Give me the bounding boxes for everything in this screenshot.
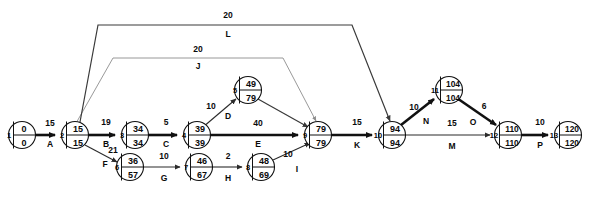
activity-G-duration: 10: [159, 151, 169, 161]
node-8-late-time: 69: [259, 170, 269, 180]
activity-A-duration: 15: [45, 118, 55, 128]
node-13-early-time: 120: [565, 124, 579, 134]
activity-F-name: F: [102, 159, 107, 169]
activity-H-duration: 2: [226, 151, 231, 161]
node-12-late-time: 110: [505, 138, 519, 148]
node-13[interactable]: 13 120 120: [550, 122, 582, 149]
edge-5-to-9[interactable]: [258, 99, 308, 127]
node-2-late-time: 15: [73, 138, 83, 148]
node-1-label: 1: [7, 131, 11, 140]
activity-I-duration: 10: [283, 149, 293, 159]
node-1-early-time: 0: [21, 124, 26, 134]
node-2[interactable]: 2 15 15: [60, 122, 89, 149]
activity-E-duration: 40: [253, 118, 263, 128]
node-5[interactable]: 5 49 79: [233, 77, 262, 104]
node-10-label: 10: [374, 131, 382, 140]
nodes-layer: 1 0 0 2 15 15 3 34 34: [7, 77, 582, 181]
activity-P-duration: 10: [535, 117, 545, 127]
node-6[interactable]: 6 36 57: [115, 154, 144, 181]
activity-P-name: P: [537, 140, 543, 150]
node-6-label: 6: [115, 163, 119, 172]
activity-J-duration: 20: [193, 44, 203, 54]
activity-G-name: G: [161, 173, 168, 183]
node-5-early-time: 49: [246, 79, 256, 89]
node-13-label: 13: [550, 131, 558, 140]
node-12-label: 12: [490, 131, 498, 140]
node-9-early-time: 79: [316, 124, 326, 134]
node-4[interactable]: 4 39 39: [182, 122, 211, 149]
edge-O[interactable]: [459, 100, 496, 126]
node-13-late-time: 120: [565, 138, 579, 148]
edge-L[interactable]: [80, 25, 390, 122]
activity-M-name: M: [448, 141, 455, 151]
activity-C-duration: 5: [164, 117, 169, 127]
activity-E-name: E: [255, 139, 261, 149]
node-5-late-time: 79: [246, 93, 256, 103]
node-3-label: 3: [120, 131, 124, 140]
activity-N-name: N: [423, 116, 429, 126]
node-2-label: 2: [60, 131, 64, 140]
node-10[interactable]: 10 94 94: [374, 122, 406, 149]
activity-F-duration: 21: [108, 145, 118, 155]
node-8-early-time: 48: [259, 156, 269, 166]
node-7-early-time: 46: [197, 156, 207, 166]
node-5-label: 5: [233, 86, 237, 95]
node-1[interactable]: 1 0 0: [7, 122, 36, 149]
activity-M-duration: 15: [447, 118, 457, 128]
node-11-early-time: 104: [446, 79, 460, 89]
node-11-label: 11: [431, 86, 439, 95]
node-6-late-time: 57: [128, 170, 138, 180]
node-3[interactable]: 3 34 34: [120, 122, 149, 149]
activity-D-duration: 10: [206, 101, 216, 111]
activity-N-duration: 10: [409, 102, 419, 112]
activity-C-name: C: [163, 139, 169, 149]
node-7-late-time: 67: [197, 170, 207, 180]
node-10-late-time: 94: [390, 138, 400, 148]
node-4-early-time: 39: [195, 124, 205, 134]
activity-O-duration: 6: [482, 101, 487, 111]
activity-B-duration: 19: [101, 117, 111, 127]
activity-J-name: J: [196, 61, 201, 71]
node-3-late-time: 34: [133, 138, 143, 148]
node-11[interactable]: 11 104 104: [431, 77, 462, 104]
activity-O-name: O: [470, 117, 477, 127]
node-8[interactable]: 8 48 69: [246, 154, 275, 181]
activity-H-name: H: [225, 173, 231, 183]
node-1-late-time: 0: [21, 138, 26, 148]
node-7[interactable]: 7 46 67: [184, 154, 213, 181]
node-10-early-time: 94: [390, 124, 400, 134]
activity-L-duration: 20: [223, 10, 233, 20]
node-11-late-time: 104: [446, 93, 460, 103]
node-12-early-time: 110: [505, 124, 519, 134]
network-diagram-canvas: 15 A 19 B 5 C 10 D 40 E 21 F 10 G 2 H 10…: [0, 0, 592, 200]
node-9-late-time: 79: [316, 138, 326, 148]
activity-K-duration: 15: [352, 117, 362, 127]
activity-L-name: L: [225, 29, 230, 39]
activity-network-svg: 15 A 19 B 5 C 10 D 40 E 21 F 10 G 2 H 10…: [0, 0, 592, 200]
activity-I-name: I: [296, 164, 298, 174]
activity-K-name: K: [354, 140, 361, 150]
node-8-label: 8: [246, 163, 250, 172]
node-4-late-time: 39: [195, 138, 205, 148]
node-7-label: 7: [184, 163, 188, 172]
node-6-early-time: 36: [128, 156, 138, 166]
node-9-label: 9: [303, 131, 307, 140]
activity-D-name: D: [225, 111, 231, 121]
node-3-early-time: 34: [133, 124, 143, 134]
node-2-early-time: 15: [73, 124, 83, 134]
activity-A-name: A: [47, 139, 53, 149]
